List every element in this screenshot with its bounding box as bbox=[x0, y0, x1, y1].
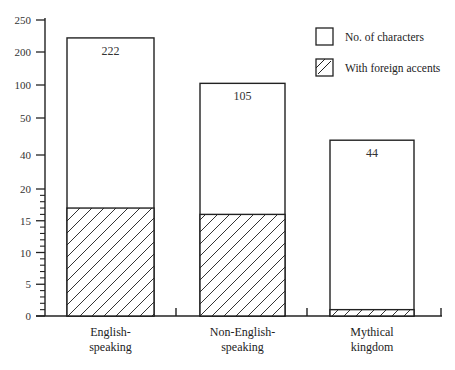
bar-value-label: 44 bbox=[366, 146, 378, 160]
bar-accent-hatched bbox=[200, 214, 285, 316]
bar-accent-hatched bbox=[330, 310, 414, 316]
y-tick-label: 40 bbox=[20, 149, 32, 161]
category-label: English- bbox=[90, 325, 131, 339]
bar-group: 105 bbox=[200, 83, 285, 316]
y-axis: 051015204050100200250 bbox=[15, 14, 46, 322]
legend-swatch-empty-icon bbox=[316, 28, 333, 45]
category-label: speaking bbox=[221, 340, 264, 354]
y-tick-label: 10 bbox=[20, 247, 32, 259]
bars: 22210544 bbox=[67, 38, 414, 316]
legend-label: No. of characters bbox=[345, 31, 424, 43]
legend-item-accents: With foreign accents bbox=[316, 59, 441, 76]
legend-item-characters: No. of characters bbox=[316, 28, 424, 45]
y-major-ticks: 051015204050100200250 bbox=[15, 14, 46, 322]
category-label: speaking bbox=[89, 340, 132, 354]
y-tick-label: 15 bbox=[20, 215, 32, 227]
category-label: Non-English- bbox=[210, 325, 275, 339]
bar-group: 44 bbox=[330, 140, 414, 316]
y-tick-label: 100 bbox=[15, 79, 32, 91]
bar-group: 222 bbox=[67, 38, 154, 316]
y-tick-label: 200 bbox=[15, 46, 32, 58]
bar-value-label: 222 bbox=[102, 44, 120, 58]
bar-chart: 051015204050100200250 22210544 English-s… bbox=[0, 0, 455, 370]
y-tick-label: 50 bbox=[20, 112, 32, 124]
category-label: Mythical bbox=[350, 325, 394, 339]
bar-total bbox=[330, 140, 414, 316]
y-tick-label: 20 bbox=[20, 183, 32, 195]
y-tick-label: 5 bbox=[26, 278, 32, 290]
bar-accent-hatched bbox=[67, 208, 154, 316]
legend: No. of characters With foreign accents bbox=[316, 28, 441, 76]
bar-value-label: 105 bbox=[234, 89, 252, 103]
category-labels: English-speakingNon-English-speakingMyth… bbox=[89, 325, 394, 354]
y-tick-label: 0 bbox=[26, 310, 32, 322]
y-tick-label: 250 bbox=[15, 14, 32, 26]
legend-label: With foreign accents bbox=[345, 62, 441, 75]
category-label: kingdom bbox=[351, 340, 394, 354]
